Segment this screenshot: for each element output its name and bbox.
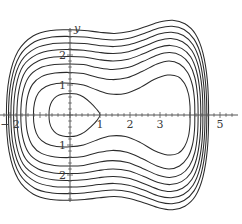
y-axis-name-label: y [73, 22, 81, 35]
y-tick-label: 1 [59, 139, 66, 152]
x-tick-label: 5 [217, 118, 224, 131]
x-tick-label: 1 [97, 118, 104, 131]
y-tick-label: 2 [59, 169, 66, 182]
contour-plot-figure: − 212352112xy [0, 0, 242, 224]
x-tick-label: 2 [127, 118, 134, 131]
x-tick-label: − 2 [0, 118, 20, 131]
y-tick-label: 2 [59, 49, 66, 62]
y-tick-label: 1 [59, 79, 66, 92]
x-tick-label: 3 [157, 118, 164, 131]
plot-canvas: − 212352112xy [0, 0, 242, 224]
axes-group [0, 28, 238, 202]
